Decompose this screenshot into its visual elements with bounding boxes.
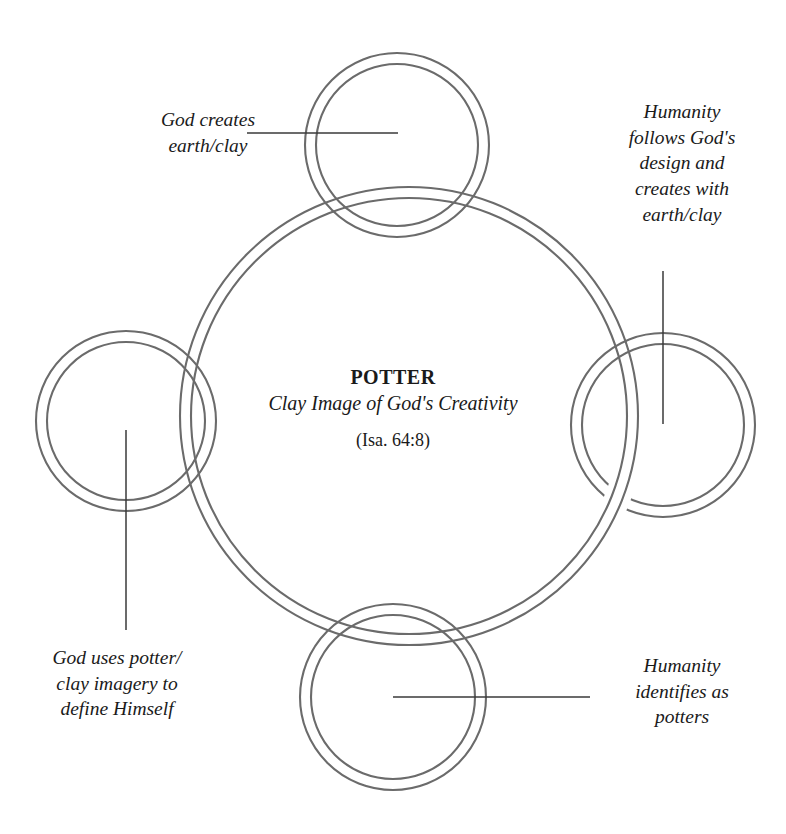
node-ring-top — [305, 53, 489, 237]
center-caption: POTTER Clay Image of God's Creativity (I… — [243, 365, 543, 452]
node-label-bottom: Humanity identifies as potters — [592, 653, 772, 730]
node-label-left: God uses potter/ clay imagery to define … — [14, 645, 220, 722]
center-title: POTTER — [243, 365, 543, 389]
center-subtitle: Clay Image of God's Creativity — [243, 391, 543, 415]
node-label-top: God creates earth/clay — [118, 107, 298, 158]
node-label-right: Humanity follows God's design and create… — [596, 99, 768, 228]
center-scripture-reference: (Isa. 64:8) — [243, 430, 543, 452]
diagram-canvas: POTTER Clay Image of God's Creativity (I… — [0, 0, 786, 834]
